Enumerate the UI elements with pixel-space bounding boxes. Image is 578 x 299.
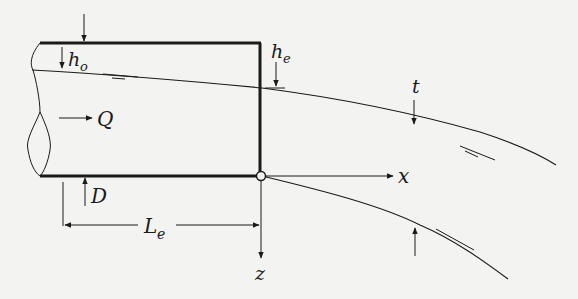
lower-jet-mark xyxy=(436,229,474,250)
label-ho-sub: o xyxy=(80,59,88,74)
origin-point xyxy=(257,172,266,181)
label-D: D xyxy=(90,184,107,208)
label-Q: Q xyxy=(97,107,113,131)
label-x: x xyxy=(398,164,409,188)
label-t: t xyxy=(412,75,420,97)
diagram-canvas: h o h e t Q x z D L e xyxy=(0,0,578,299)
lower-jet-trajectory xyxy=(262,176,508,279)
label-z: z xyxy=(254,262,266,284)
label-Le-L: L xyxy=(143,214,157,238)
label-he-h: h xyxy=(271,40,283,62)
jet-diagram: h o h e t Q x z D L e xyxy=(0,0,578,299)
pipe-break-symbol xyxy=(27,43,40,176)
label-he-sub: e xyxy=(283,51,291,66)
surface-mark-upper-jet xyxy=(460,146,495,160)
label-Le-sub: e xyxy=(157,226,165,242)
label-h: h xyxy=(68,48,80,70)
surface-mark xyxy=(103,74,138,77)
